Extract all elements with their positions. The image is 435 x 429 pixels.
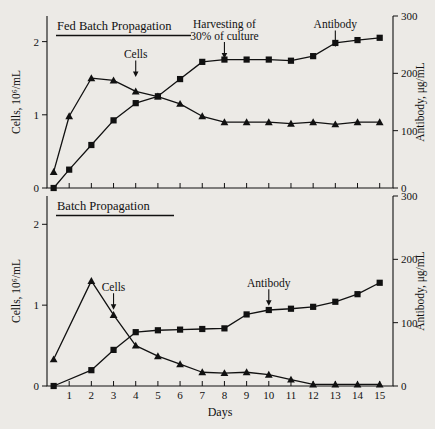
data-point-square: [354, 291, 360, 297]
data-point-square: [244, 311, 250, 317]
data-point-square: [133, 329, 139, 335]
x-tick-label: 6: [177, 389, 183, 401]
x-tick-label: 5: [155, 389, 161, 401]
x-tick-label: 14: [352, 389, 364, 401]
data-point-triangle: [110, 311, 118, 318]
left-tick-label: 2: [34, 218, 40, 230]
data-point-square: [221, 325, 227, 331]
x-tick-label: 3: [111, 389, 117, 401]
data-point-square: [332, 299, 338, 305]
annotation-label: Cells: [102, 281, 126, 293]
x-tick-label: 4: [133, 389, 139, 401]
figure-container: 0120100200300CellsHarvesting of30% of cu…: [0, 0, 435, 429]
series-line-cells: [54, 281, 380, 384]
x-tick-label: 10: [263, 389, 275, 401]
right-axis-title: Antibody, μg/mL: [414, 251, 427, 331]
data-point-square: [266, 307, 272, 313]
annotation-arrow-head: [111, 304, 117, 310]
data-point-square: [377, 280, 383, 286]
data-point-square: [88, 367, 94, 373]
data-point-square: [51, 383, 57, 389]
annotation-arrow-head: [266, 300, 272, 306]
data-point-triangle: [50, 355, 58, 362]
data-point-triangle: [154, 352, 162, 359]
x-tick-label: 1: [66, 389, 72, 401]
data-point-square: [199, 326, 205, 332]
data-point-square: [310, 304, 316, 310]
data-point-triangle: [87, 277, 95, 284]
left-axis-title: Cells, 10⁶/mL: [10, 259, 23, 323]
data-point-square: [110, 347, 116, 353]
x-tick-label: 15: [374, 389, 386, 401]
data-point-square: [288, 306, 294, 312]
right-tick-label: 0: [401, 380, 407, 392]
batch-panel-plot: 0120100200300CellsAntibodyBatch Propagat…: [0, 0, 435, 429]
x-tick-label: 7: [200, 389, 206, 401]
x-axis-title: Days: [208, 405, 233, 419]
right-tick-label: 300: [401, 190, 418, 202]
x-tick-label: 2: [89, 389, 95, 401]
plot-frame: [47, 196, 393, 386]
data-point-square: [177, 327, 183, 333]
panel-title: Batch Propagation: [57, 199, 150, 213]
left-tick-label: 0: [34, 380, 40, 392]
x-tick-label: 8: [222, 389, 228, 401]
x-tick-label: 9: [244, 389, 250, 401]
left-tick-label: 1: [34, 299, 40, 311]
annotation-label: Antibody: [247, 277, 291, 290]
x-tick-label: 13: [330, 389, 342, 401]
x-tick-label: 11: [286, 389, 297, 401]
x-tick-label: 12: [308, 389, 319, 401]
data-point-square: [155, 327, 161, 333]
